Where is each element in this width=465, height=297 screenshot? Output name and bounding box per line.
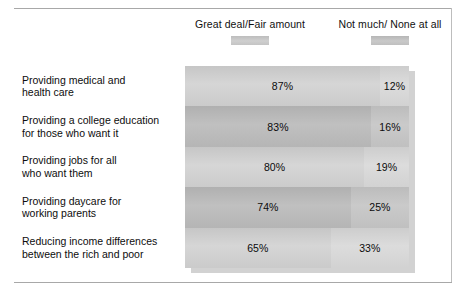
bar-row: 80%19% <box>185 147 409 187</box>
legend-swatch-not-much <box>371 36 409 45</box>
bar-row: 74%25% <box>185 187 409 227</box>
bar-segment-not-much: 12% <box>380 66 409 106</box>
legend-swatch-great-deal <box>231 36 269 45</box>
frame-rule-right <box>451 8 452 283</box>
category-label-line: between the rich and poor <box>22 248 157 261</box>
bar-segment-great-deal: 65% <box>185 228 331 268</box>
legend-label-great-deal: Great deal/Fair amount <box>181 18 319 31</box>
bar-value-label: 87% <box>272 80 293 92</box>
chart-legend: Great deal/Fair amount Not much/ None at… <box>185 18 451 58</box>
bar-row: 83%16% <box>185 106 409 146</box>
bar-segment-great-deal: 87% <box>185 66 380 106</box>
bar-row: 65%33% <box>185 228 409 268</box>
category-label-line: Providing a college education <box>22 114 159 127</box>
bar-segment-not-much: 16% <box>371 106 409 146</box>
bar-value-label: 25% <box>369 201 390 213</box>
bar-value-label: 16% <box>379 121 400 133</box>
category-label: Providing daycare forworking parents <box>22 187 180 227</box>
legend-item-great-deal: Great deal/Fair amount <box>181 18 319 45</box>
bar-value-label: 19% <box>376 161 397 173</box>
bar-value-label: 74% <box>257 201 278 213</box>
category-label-line: Providing jobs for all <box>22 154 117 167</box>
chart-figure: Great deal/Fair amount Not much/ None at… <box>0 0 465 297</box>
category-label-line: Reducing income differences <box>22 235 157 248</box>
bar-value-label: 12% <box>384 80 405 92</box>
bar-segment-great-deal: 74% <box>185 187 351 227</box>
bar-segment-not-much: 33% <box>331 228 409 268</box>
category-label-line: health care <box>22 86 125 99</box>
bar-segment-great-deal: 80% <box>185 147 364 187</box>
category-label: Providing a college educationfor those w… <box>22 106 180 146</box>
frame-rule-bottom <box>14 282 452 283</box>
category-label: Reducing income differencesbetween the r… <box>22 228 180 268</box>
category-label-line: who want them <box>22 167 117 180</box>
bar-segment-not-much: 19% <box>364 147 409 187</box>
category-label-line: Providing daycare for <box>22 195 121 208</box>
bar-value-label: 83% <box>267 121 288 133</box>
bar-segment-great-deal: 83% <box>185 106 371 146</box>
category-label: Providing jobs for allwho want them <box>22 147 180 187</box>
frame-rule-top <box>14 8 452 9</box>
category-axis: Providing medical andhealth careProvidin… <box>22 66 180 268</box>
category-label-line: for those who want it <box>22 127 159 140</box>
bar-row: 87%12% <box>185 66 409 106</box>
bar-value-label: 80% <box>264 161 285 173</box>
bar-value-label: 33% <box>359 242 380 254</box>
bar-segment-not-much: 25% <box>351 187 409 227</box>
bar-value-label: 65% <box>247 242 268 254</box>
category-label-line: working parents <box>22 207 121 220</box>
legend-item-not-much: Not much/ None at all <box>325 18 455 45</box>
plot-area: 87%12%83%16%80%19%74%25%65%33% <box>185 66 409 268</box>
category-label: Providing medical andhealth care <box>22 66 180 106</box>
legend-label-not-much: Not much/ None at all <box>325 18 455 31</box>
category-label-line: Providing medical and <box>22 74 125 87</box>
